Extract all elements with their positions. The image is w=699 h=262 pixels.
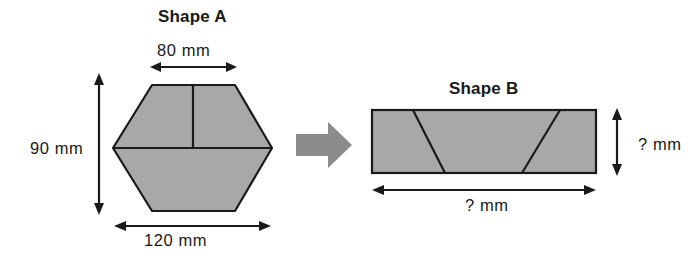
shape-a-bottom-width-label: 120 mm bbox=[144, 232, 207, 249]
shape-b-width-arrow bbox=[372, 185, 596, 195]
shape-b-height-arrow bbox=[612, 108, 622, 176]
shape-a-height-arrow bbox=[94, 73, 104, 215]
shape-b-title: Shape B bbox=[449, 80, 518, 97]
shape-a-top-width-label: 80 mm bbox=[157, 42, 210, 59]
diagram-canvas bbox=[0, 0, 699, 262]
shape-b-rectangle bbox=[372, 110, 596, 173]
shape-a-height-label: 90 mm bbox=[30, 140, 83, 157]
shape-a-title: Shape A bbox=[158, 8, 227, 25]
right-arrow-icon bbox=[296, 122, 352, 168]
shape-a-bottom-width-arrow bbox=[114, 221, 271, 231]
shape-b-height-label: ? mm bbox=[638, 136, 682, 153]
shape-a-top-width-arrow bbox=[150, 62, 237, 72]
shape-b-width-label: ? mm bbox=[465, 197, 509, 214]
